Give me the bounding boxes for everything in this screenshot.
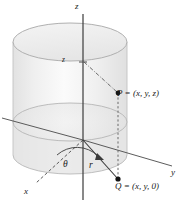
cylindrical-coordinates-figure: z z x y θ r P = (x, y, z) Q = (x, y, 0) xyxy=(0,0,185,206)
z-axis-label: z xyxy=(75,2,79,11)
z-tick-label: z xyxy=(62,56,65,64)
xy-plane-disk xyxy=(13,103,127,141)
theta-label: θ xyxy=(63,160,68,170)
r-label: r xyxy=(89,161,93,171)
cylinder-midsection-ellipse xyxy=(13,103,127,141)
x-axis-label: x xyxy=(24,187,28,196)
cylinder-top-ellipse xyxy=(13,23,127,61)
point-P-label: P = (x, y, z) xyxy=(117,89,159,98)
figure-canvas xyxy=(0,0,185,206)
y-axis-label: y xyxy=(171,168,175,177)
cylinder-top-cap xyxy=(13,23,127,61)
point-Q-label: Q = (x, y, 0) xyxy=(115,182,159,191)
